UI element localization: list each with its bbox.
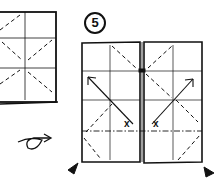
step-5-paper	[82, 42, 202, 163]
reference-mark-x-left: x	[124, 118, 130, 129]
origami-diagram: x x	[0, 0, 222, 189]
reference-mark-x-right: x	[153, 118, 159, 129]
push-triangle-right	[204, 167, 214, 177]
turn-over-icon	[18, 134, 51, 149]
previous-step-paper	[0, 12, 58, 104]
push-triangle-left	[68, 163, 78, 174]
